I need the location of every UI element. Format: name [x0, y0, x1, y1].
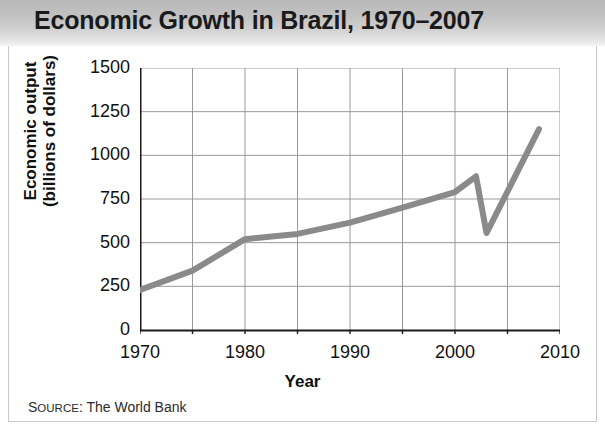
x-tick-label: 1970 — [100, 342, 180, 363]
gridlines — [140, 68, 560, 330]
y-tick-label: 250 — [68, 275, 130, 296]
y-tick-label: 1250 — [68, 101, 130, 122]
x-tick-label: 1980 — [205, 342, 285, 363]
y-tick-label: 750 — [68, 188, 130, 209]
y-axis-title: Economic output (billions of dollars) — [21, 21, 59, 241]
y-axis-title-line2: (billions of dollars) — [40, 21, 59, 241]
x-axis-title: Year — [0, 372, 605, 392]
x-tick-label: 1990 — [310, 342, 390, 363]
y-tick-label: 1500 — [68, 57, 130, 78]
source-prefix-cap: S — [28, 399, 37, 415]
y-axis-title-line1: Economic output — [21, 21, 40, 241]
x-tick-label: 2000 — [415, 342, 495, 363]
x-tick-label: 2010 — [520, 342, 600, 363]
source-note: SOURCE: The World Bank — [28, 399, 187, 415]
chart-figure: Economic Growth in Brazil, 1970–2007 Eco… — [0, 0, 605, 433]
data-line — [140, 129, 539, 290]
y-tick-label: 0 — [68, 319, 130, 340]
plot-area — [140, 68, 560, 330]
source-text: : The World Bank — [79, 399, 187, 415]
frame-border-bottom — [8, 421, 597, 422]
source-prefix-smallcaps: OURCE — [37, 402, 79, 414]
y-tick-label: 1000 — [68, 144, 130, 165]
y-tick-label: 500 — [68, 232, 130, 253]
chart-canvas — [140, 68, 560, 334]
frame-border-left — [8, 46, 9, 421]
page-title: Economic Growth in Brazil, 1970–2007 — [34, 6, 484, 35]
frame-border-right — [596, 46, 597, 421]
title-band: Economic Growth in Brazil, 1970–2007 — [0, 0, 605, 46]
